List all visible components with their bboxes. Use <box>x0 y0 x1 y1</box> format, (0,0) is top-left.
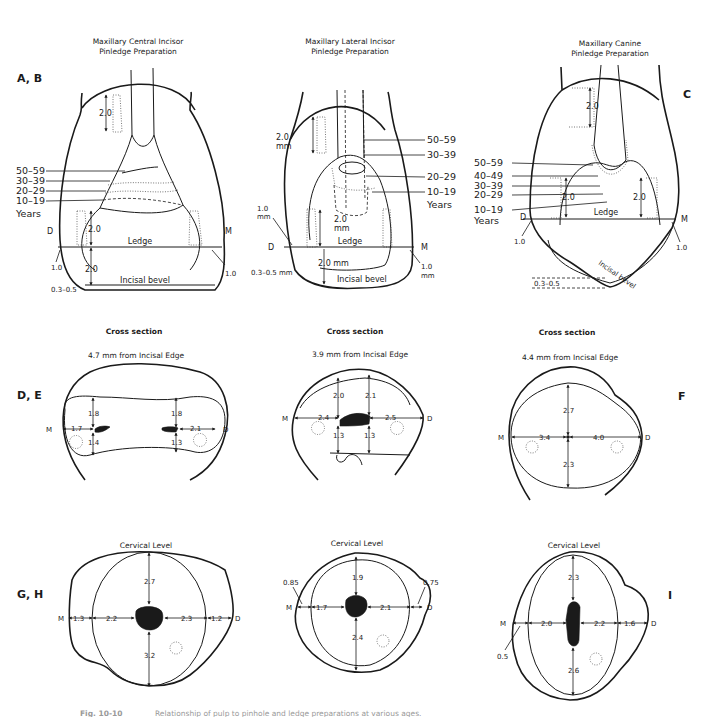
mesial-margin-leader <box>672 222 680 242</box>
pin-depth-value: 2.0 <box>276 133 289 142</box>
prep-curve-right <box>183 205 200 270</box>
pulp-shape <box>100 135 183 213</box>
panel-lateral-title-line1: Maxillary Lateral Incisor <box>305 37 395 46</box>
left-value: 3.4 <box>539 434 551 442</box>
outer-outline <box>63 364 227 480</box>
pulp-20-29 <box>105 190 178 193</box>
years-10-19: 10–19 <box>474 204 503 215</box>
cross-section-header: Cross section <box>327 327 384 336</box>
m-label: M <box>681 215 688 224</box>
leader-10-19 <box>512 202 607 210</box>
years-50-59: 50–59 <box>427 134 456 145</box>
d-label: D <box>235 615 240 623</box>
m-label: M <box>421 243 428 252</box>
ledge-depth-right-value: 2.0 <box>633 193 646 202</box>
right-side-value: 2.1 <box>190 425 201 433</box>
cingulum-curves <box>337 455 362 465</box>
pulp-20-29 <box>332 168 375 190</box>
top-value: 2.3 <box>568 574 579 582</box>
right-value: 2.2 <box>594 620 605 628</box>
pin-channel <box>113 95 122 132</box>
m-label: M <box>498 434 504 442</box>
years-10-19: 10–19 <box>16 195 45 206</box>
pulp-outline <box>309 155 391 270</box>
panel-ab-title-line2: Pinledge Preparation <box>99 47 177 56</box>
cross-section-subheader: 4.4 mm from Incisal Edge <box>522 353 619 362</box>
right-top-value: 2.1 <box>365 392 376 400</box>
canal-lines <box>131 68 154 135</box>
d-label: D <box>520 213 526 222</box>
d-label: D <box>427 604 432 612</box>
right-bottom-value: 1.3 <box>364 432 375 440</box>
incisal-depth-value: 2.0 mm <box>318 259 349 268</box>
ledge-label: Ledge <box>338 237 362 246</box>
d-label: D <box>223 426 228 434</box>
figure-canvas: Maxillary Central Incisor Pinledge Prepa… <box>0 0 721 717</box>
d-label: D <box>47 227 53 236</box>
pulp-10-19 <box>334 185 368 216</box>
panel-ab-title-line1: Maxillary Central Incisor <box>93 37 185 46</box>
panel-i-cervical: Cervical Level I 2.3 2.6 2.0 2.2 1.6 0.5… <box>497 541 672 700</box>
distal-margin-leader <box>273 218 292 245</box>
mesial-margin-unit: mm <box>421 272 435 280</box>
right-side-value: 2.5 <box>385 414 396 422</box>
top-value: 1.9 <box>352 574 363 582</box>
right-value: 2.3 <box>181 615 192 623</box>
years-20-29: 20–29 <box>427 171 456 182</box>
years-word: Years <box>426 199 452 210</box>
pinhole <box>345 596 367 618</box>
m-label: M <box>282 415 288 423</box>
ledge-pin-left <box>550 178 561 218</box>
left-value: 2.2 <box>106 615 117 623</box>
m-label: M <box>46 426 52 434</box>
top-value: 2.7 <box>144 578 155 586</box>
years-50-59: 50–59 <box>474 157 503 168</box>
panel-c-title-line1: Maxillary Canine <box>579 39 642 48</box>
cross-section-header: Cross section <box>539 328 596 337</box>
left-side-value: 1.7 <box>71 425 82 433</box>
cervical-header: Cervical Level <box>548 541 600 550</box>
ledge-label: Ledge <box>594 208 618 217</box>
d-label: D <box>651 620 656 628</box>
panel-lateral-cross-section: Cross section 3.9 mm from Incisal Edge 2… <box>282 327 432 480</box>
figure-caption: Fig. 10-10 Relationship of pulp to pinho… <box>80 709 421 717</box>
mesial-margin-leader <box>212 250 225 265</box>
left-top-value: 2.0 <box>333 392 344 400</box>
d-label: D <box>427 415 432 423</box>
pin-depth-value: 2.0 <box>99 109 112 118</box>
outer-right-value: 0.75 <box>423 579 439 587</box>
outer-left-value: 0.5 <box>497 653 508 661</box>
crown-top <box>562 79 659 100</box>
ledge-label: Ledge <box>128 237 152 246</box>
ledge-depth-unit: mm <box>334 224 350 233</box>
pulp-horn <box>590 653 602 665</box>
left-side-value: 2.4 <box>318 414 330 422</box>
panel-lateral-cervical: Cervical Level 1.9 2.4 1.7 2.1 0.85 0.75… <box>283 539 439 672</box>
pinhole-center <box>566 435 570 439</box>
cross-section-header: Cross section <box>106 327 163 336</box>
panel-c-canine: Maxillary Canine Pinledge Preparation C … <box>473 39 691 291</box>
incisal-depth-value: 2.0 <box>85 265 98 274</box>
bottom-value: 2.6 <box>568 667 580 675</box>
incisal-bevel-label: Incisal bevel <box>337 275 387 284</box>
mesial-margin-value: 1.0 <box>676 244 687 252</box>
cross-section-subheader: 4.7 mm from Incisal Edge <box>88 351 185 360</box>
distal-margin-leader <box>56 250 60 262</box>
pinhole <box>566 602 580 646</box>
panel-c-title-line2: Pinledge Preparation <box>571 49 649 58</box>
pin-channel <box>317 117 326 153</box>
years-20-29: 20–29 <box>474 189 503 200</box>
pulp-10-19 <box>103 198 182 205</box>
mesial-margin-value: 1.0 <box>225 270 236 278</box>
canal-lines <box>337 90 364 158</box>
inner-outline-bottom <box>330 453 410 455</box>
pulp-horn-left <box>70 436 83 449</box>
leader-50-59 <box>512 163 593 165</box>
m-label: M <box>500 620 506 628</box>
left-value: 2.0 <box>541 620 552 628</box>
pulp-30-39 <box>108 182 175 185</box>
d-label: D <box>645 434 650 442</box>
pinhole-slot <box>340 413 370 426</box>
years-10-19: 10–19 <box>427 186 456 197</box>
panel-ab-label: A, B <box>17 72 42 85</box>
